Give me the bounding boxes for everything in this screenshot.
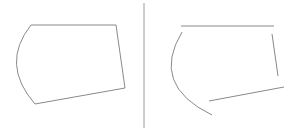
right-segment — [272, 34, 278, 76]
arc-segment — [171, 32, 212, 115]
left-shape-outline — [16, 25, 125, 104]
left-shape — [16, 25, 125, 104]
diagram-canvas — [0, 0, 300, 133]
bottom-segment — [209, 87, 284, 101]
right-shape — [171, 26, 284, 115]
